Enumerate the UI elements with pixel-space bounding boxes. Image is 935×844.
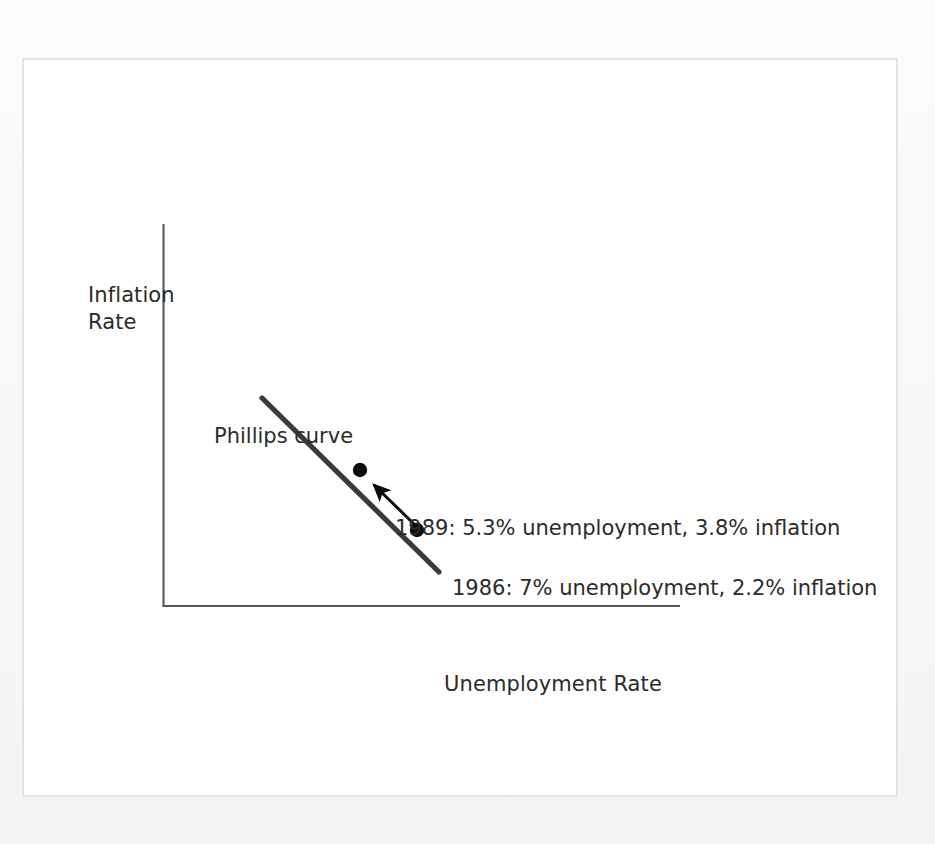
y-axis-label: Inflation Rate: [88, 282, 175, 336]
annotation-label-1989: 1989: 5.3% unemployment, 3.8% inflation: [395, 515, 840, 542]
phillips-curve-label: Phillips curve: [214, 423, 353, 450]
x-axis-label: Unemployment Rate: [444, 671, 662, 698]
figure-page: Inflation Rate Unemployment Rate Phillip…: [0, 0, 935, 844]
figure-canvas: Inflation Rate Unemployment Rate Phillip…: [24, 60, 896, 795]
annotation-label-1986: 1986: 7% unemployment, 2.2% inflation: [452, 575, 877, 602]
figure-frame: Inflation Rate Unemployment Rate Phillip…: [22, 58, 898, 797]
data-point-marker-1989: [353, 463, 367, 477]
